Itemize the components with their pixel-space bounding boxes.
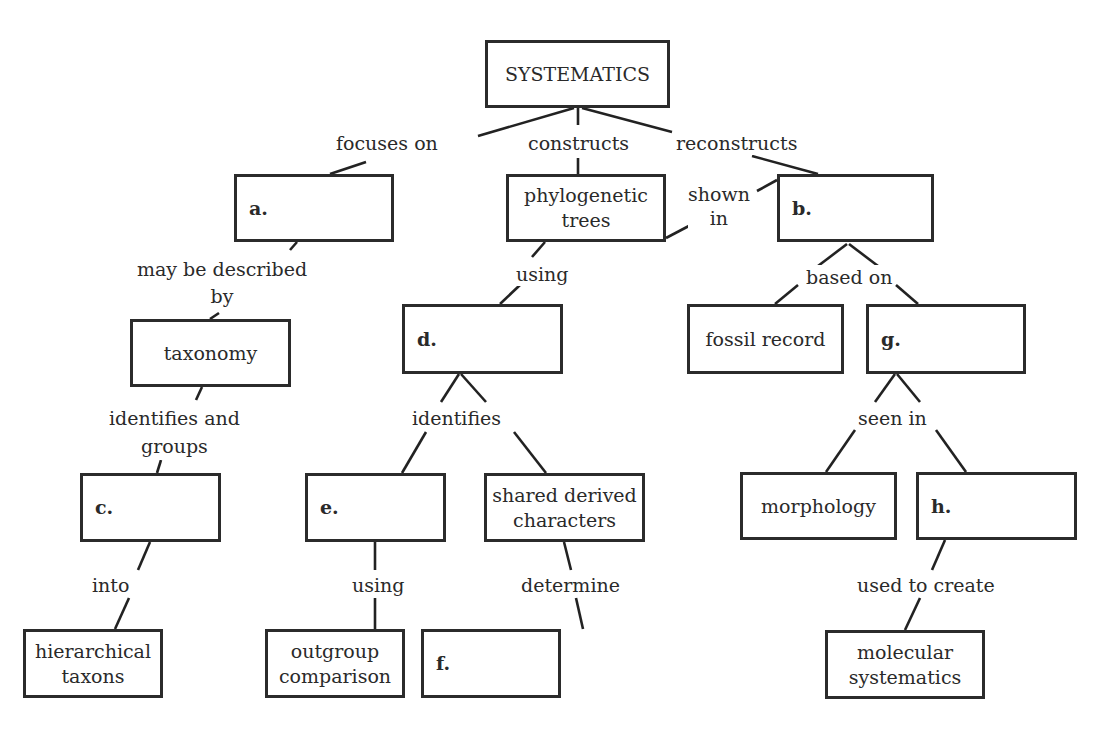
link-reconstructs: reconstructs [676,131,797,155]
link-used-to-create: used to create [857,573,995,597]
node-h: h. [916,472,1077,540]
node-d-letter: d. [417,327,437,352]
link-determine: determine [521,573,620,597]
link-may-line1: may be described [137,256,307,283]
node-taxonomy: taxonomy [130,319,291,387]
node-g: g. [866,304,1026,374]
node-systematics: SYSTEMATICS [485,40,670,108]
node-e-letter: e. [320,495,339,520]
node-f: f. [421,629,561,698]
node-molec-line1: molecular [857,640,953,665]
node-d: d. [402,304,563,374]
node-fossil-record: fossil record [687,304,844,374]
node-phylo-line1: phylogenetic [524,183,648,208]
node-g-letter: g. [881,327,901,352]
link-constructs: constructs [528,131,629,155]
node-phylo-line2: trees [562,208,611,233]
link-may-be-described-by: may be described by [137,256,307,310]
link-ident-line2: groups [109,432,240,460]
node-b-letter: b. [792,196,812,221]
node-hierarchical-taxons: hierarchical taxons [23,629,163,698]
node-c-letter: c. [95,495,113,520]
link-into: into [92,573,129,597]
link-focuses-on: focuses on [336,131,438,155]
node-molecular-systematics: molecular systematics [825,630,985,699]
link-identifies-and-groups: identifies and groups [109,404,240,460]
node-hier-line2: taxons [61,664,124,689]
node-outgroup-line1: outgroup [291,639,379,664]
node-a: a. [234,174,394,242]
node-morphology: morphology [740,472,897,540]
link-shown-line1: shown [688,182,750,206]
node-outgroup-comparison: outgroup comparison [265,629,405,698]
link-shown-line2: in [688,206,750,230]
node-h-letter: h. [931,494,951,519]
node-shared-line1: shared derived [492,483,637,508]
node-outgroup-line2: comparison [279,664,391,689]
link-using-top: using [516,262,568,286]
node-c: c. [80,473,221,542]
node-b: b. [777,174,934,242]
link-using-bottom: using [352,573,404,597]
node-shared-derived-characters: shared derived characters [484,473,645,542]
node-morphology-label: morphology [761,494,876,519]
link-ident-line1: identifies and [109,404,240,432]
node-a-letter: a. [249,196,268,221]
node-e: e. [305,473,446,542]
node-fossil-label: fossil record [706,327,826,352]
link-may-line2: by [137,283,307,310]
node-molec-line2: systematics [849,665,962,690]
link-shown-in: shown in [688,182,750,230]
node-hier-line1: hierarchical [35,639,151,664]
node-taxonomy-label: taxonomy [164,341,258,366]
node-systematics-label: SYSTEMATICS [505,62,650,87]
link-seen-in: seen in [858,406,927,430]
node-shared-line2: characters [513,508,616,533]
node-phylogenetic-trees: phylogenetic trees [506,174,666,242]
link-based-on: based on [806,265,892,289]
node-f-letter: f. [436,651,450,676]
link-identifies: identifies [412,406,501,430]
